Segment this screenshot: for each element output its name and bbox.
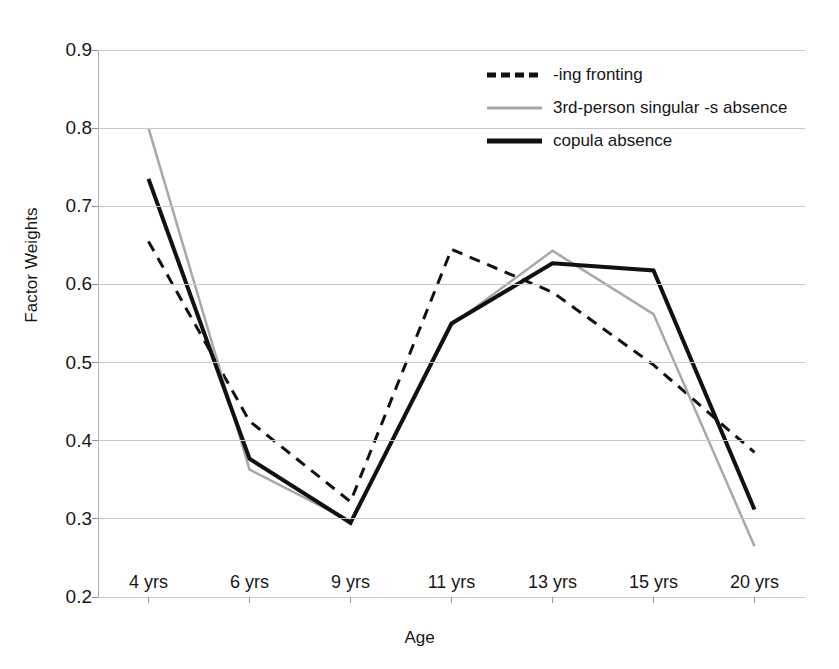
series-line — [149, 179, 755, 523]
legend-label: copula absence — [553, 131, 672, 151]
legend-label: 3rd-person singular -s absence — [553, 98, 787, 118]
x-tick-label: 9 yrs — [306, 573, 396, 591]
x-tick-label: 4 yrs — [104, 573, 194, 591]
gridline — [98, 440, 805, 441]
y-tick-label: 0.8 — [38, 118, 92, 137]
legend-item[interactable]: copula absence — [487, 124, 827, 157]
y-axis-tick-labels: 0.20.30.40.50.60.70.80.9 — [30, 0, 92, 669]
y-tick-mark — [92, 362, 98, 363]
gridline — [98, 50, 805, 51]
y-tick-label: 0.3 — [38, 509, 92, 528]
gridline — [98, 284, 805, 285]
y-tick-mark — [92, 440, 98, 441]
y-tick-label: 0.9 — [38, 40, 92, 59]
legend-item[interactable]: -ing fronting — [487, 58, 827, 91]
line-chart: Factor Weights 0.20.30.40.50.60.70.80.9 … — [0, 0, 839, 669]
legend: -ing fronting3rd-person singular -s abse… — [487, 58, 827, 157]
series-line — [149, 241, 755, 501]
x-tick-label: 11 yrs — [407, 573, 497, 591]
y-tick-mark — [92, 128, 98, 129]
y-tick-label: 0.5 — [38, 353, 92, 372]
y-tick-mark — [92, 518, 98, 519]
solid-gray-line-icon — [487, 101, 542, 115]
x-tick-label: 15 yrs — [609, 573, 699, 591]
gridline — [98, 518, 805, 519]
solid-black-thick-line-icon — [487, 134, 542, 148]
y-tick-label: 0.6 — [38, 274, 92, 293]
dashed-black-line-icon — [487, 68, 542, 82]
legend-label: -ing fronting — [553, 65, 643, 85]
x-tick-label: 13 yrs — [508, 573, 598, 591]
y-tick-label: 0.4 — [38, 431, 92, 450]
x-axis-title: Age — [0, 628, 839, 648]
legend-item[interactable]: 3rd-person singular -s absence — [487, 91, 827, 124]
x-tick-label: 20 yrs — [710, 573, 800, 591]
gridline — [98, 206, 805, 207]
y-tick-mark — [92, 50, 98, 51]
x-tick-label: 6 yrs — [205, 573, 295, 591]
y-tick-mark — [92, 206, 98, 207]
gridline — [98, 362, 805, 363]
y-tick-label: 0.7 — [38, 196, 92, 215]
x-axis-tick-labels: 4 yrs6 yrs9 yrs11 yrs13 yrs15 yrs20 yrs — [0, 573, 839, 603]
y-tick-mark — [92, 284, 98, 285]
series-line — [149, 128, 755, 546]
